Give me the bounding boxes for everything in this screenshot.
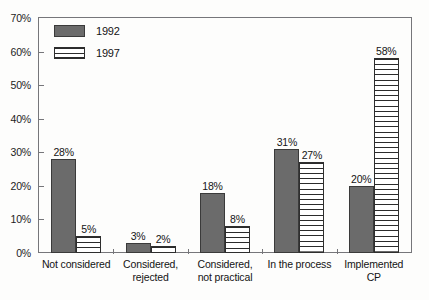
bar-1997-2[interactable]: 8%: [225, 226, 250, 253]
x-axis-category-label-line: CP: [337, 271, 411, 284]
x-axis: Not consideredConsidered,rejectedConside…: [39, 258, 411, 298]
bar-1997-1[interactable]: 2%: [151, 246, 176, 253]
striped-swatch-icon: [54, 47, 85, 59]
x-axis-category-label-line: Implemented: [337, 258, 411, 271]
y-axis-tick-label: 30%: [0, 147, 31, 157]
bar-value-label: 3%: [131, 231, 146, 242]
chart-legend: 1992 1997: [54, 22, 144, 66]
y-axis-tick-label: 20%: [0, 181, 31, 191]
bar-value-label: 8%: [230, 214, 245, 225]
y-axis-tick-label: 10%: [0, 214, 31, 224]
x-axis-group-separator: [188, 249, 189, 254]
x-axis-group-separator: [113, 249, 114, 254]
y-axis-tick-label: 70%: [0, 13, 31, 23]
bar-1992-0[interactable]: 28%: [51, 159, 76, 253]
bar-group: 18%8%: [188, 18, 262, 253]
bar-1992-1[interactable]: 3%: [126, 243, 151, 253]
bar-1992-3[interactable]: 31%: [274, 149, 299, 253]
legend-label-1997: 1997: [96, 47, 120, 59]
x-axis-category-label: Not considered: [39, 258, 113, 271]
y-axis-tick-label: 40%: [0, 114, 31, 124]
x-axis-group-separator: [337, 249, 338, 254]
x-axis-category-label: Considered,rejected: [113, 258, 187, 284]
y-axis-tick-label: 50%: [0, 80, 31, 90]
bar-1992-4[interactable]: 20%: [349, 186, 374, 253]
bar-value-label: 2%: [156, 234, 171, 245]
x-axis-category-label: In the process: [262, 258, 336, 271]
legend-label-1992: 1992: [96, 25, 120, 37]
solid-gray-swatch-icon: [54, 25, 85, 37]
bar-value-label: 58%: [376, 46, 396, 57]
bar-1997-4[interactable]: 58%: [374, 58, 399, 253]
bar-value-label: 20%: [351, 174, 371, 185]
bar-1997-0[interactable]: 5%: [76, 236, 101, 253]
bar-value-label: 28%: [53, 147, 73, 158]
y-axis-tick-label: 0%: [0, 248, 31, 258]
y-axis: 0%10%20%30%40%50%60%70%: [0, 0, 35, 300]
bar-1997-3[interactable]: 27%: [299, 162, 324, 253]
bar-group: 31%27%: [262, 18, 336, 253]
x-axis-category-label-line: rejected: [113, 271, 187, 284]
bar-group: 20%58%: [337, 18, 411, 253]
bar-value-label: 5%: [81, 224, 96, 235]
bar-value-label: 31%: [277, 137, 297, 148]
bar-value-label: 27%: [302, 150, 322, 161]
legend-item-1992: 1992: [54, 22, 144, 40]
legend-item-1997: 1997: [54, 44, 144, 62]
x-axis-category-label-line: Not considered: [39, 258, 113, 271]
x-axis-category-label-line: Considered,: [113, 258, 187, 271]
x-axis-category-label-line: In the process: [262, 258, 336, 271]
x-axis-category-label: ImplementedCP: [337, 258, 411, 284]
x-axis-category-label-line: Considered,: [188, 258, 262, 271]
x-axis-group-separator: [262, 249, 263, 254]
bar-value-label: 18%: [202, 181, 222, 192]
x-axis-category-label: Considered,not practical: [188, 258, 262, 284]
bar-1992-2[interactable]: 18%: [200, 193, 225, 253]
bar-chart: 0%10%20%30%40%50%60%70% 28%5%3%2%18%8%31…: [0, 0, 429, 300]
x-axis-category-label-line: not practical: [188, 271, 262, 284]
y-axis-tick-label: 60%: [0, 47, 31, 57]
